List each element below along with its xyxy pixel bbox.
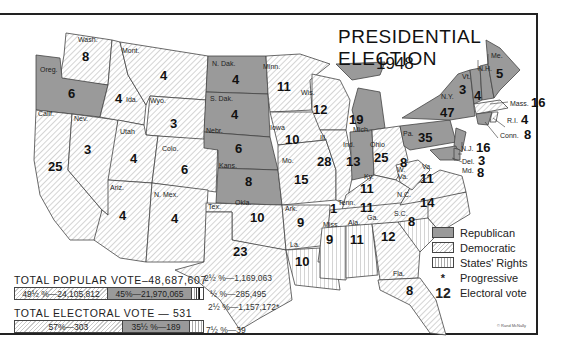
ev-tenn: 11	[360, 200, 374, 215]
legend-republican: Republican	[432, 225, 528, 240]
ev-ind: 13	[346, 154, 360, 169]
label-ida: Ida.	[126, 96, 138, 103]
ev-nebr: 6	[235, 141, 242, 156]
ev-ndak: 4	[232, 72, 240, 87]
legend-label: Republican	[460, 227, 515, 239]
ev-tex: 23	[233, 244, 247, 259]
label-colo: Colo.	[162, 145, 178, 152]
popular-vote-bar: 49½ %—24,105,812 45%—21,970,065	[14, 287, 204, 300]
ev-ariz: 4	[119, 208, 127, 223]
legend-electoral-vote: 12 Electoral vote	[432, 285, 528, 300]
states-rights-swatch	[432, 257, 454, 268]
electoral-vote-bar: 57%—303 35½ %—189	[14, 320, 204, 333]
ev-sc: 8	[408, 214, 415, 229]
ev-nh: 4	[474, 88, 482, 103]
ev-ohio: 25	[374, 150, 388, 165]
vote-totals: TOTAL POPULAR VOTE–48,687,607 49½ %—24,1…	[14, 274, 207, 333]
label-sdak: S. Dak.	[210, 95, 233, 102]
ev-nev: 3	[84, 142, 91, 157]
label-ill: Ill.	[320, 134, 327, 141]
label-md: Md.	[462, 167, 474, 174]
label-tex: Tex.	[208, 203, 221, 210]
legend: Republican Democratic States' Rights * P…	[432, 225, 528, 300]
ev-oreg: 6	[68, 86, 75, 101]
legend-label: Progressive	[460, 272, 518, 284]
ev-pa: 35	[418, 130, 432, 145]
republican-swatch	[432, 227, 454, 238]
popular-prog-note: 2½ %—1,157,172*	[208, 302, 279, 312]
label-ri: R.I.	[507, 117, 518, 124]
label-mo: Mo.	[282, 157, 294, 164]
ev-conn: 8	[524, 127, 531, 142]
label-wyo: Wyo.	[150, 97, 166, 105]
label-ny: N.Y.	[441, 93, 454, 100]
electoral-sr-segment	[190, 321, 203, 332]
ev-wyo: 3	[170, 116, 177, 131]
label-ndak: N. Dak.	[212, 60, 235, 67]
popular-dem-segment: 49½ %—24,105,812	[15, 288, 108, 299]
label-tenn: Tenn.	[338, 199, 355, 206]
ev-wva: 8	[400, 155, 407, 170]
label-fla: Fla.	[393, 270, 405, 277]
label-la: La.	[290, 241, 300, 248]
label-miss: Miss.	[323, 221, 339, 228]
label-nebr: Nebr.	[206, 127, 223, 134]
label-ark: Ark.	[285, 205, 298, 212]
ev-okla: 10	[250, 210, 264, 225]
map-year: 1948	[376, 54, 414, 74]
ev-ga: 12	[381, 229, 395, 244]
electoral-dem-segment: 57%—303	[15, 321, 123, 332]
ev-mo: 15	[294, 172, 308, 187]
asterisk-icon: *	[432, 272, 454, 284]
ev-ala: 11	[350, 232, 364, 247]
label-ind: Ind.	[343, 141, 355, 148]
ev-ark: 9	[297, 215, 304, 230]
label-wis: Wis.	[301, 89, 315, 96]
label-kans: Kans.	[219, 162, 237, 169]
label-mass: Mass.	[510, 100, 529, 107]
democratic-swatch	[432, 242, 454, 253]
popular-other-note: ½ %—285,495	[210, 289, 266, 299]
legend-progressive: * Progressive	[432, 270, 528, 285]
electoral-vote-header: TOTAL ELECTORAL VOTE — 531	[14, 307, 207, 319]
label-wash: Wash.	[78, 36, 98, 43]
ev-la: 10	[295, 254, 309, 269]
label-mont: Mont.	[122, 47, 140, 54]
label-minn: Minn.	[263, 63, 280, 70]
label-ariz: Ariz.	[110, 184, 124, 191]
label-vt: Vt.	[462, 73, 471, 80]
label-nmex: N. Mex.	[154, 191, 178, 198]
label-nj: N.J.	[461, 145, 474, 152]
ev-tenn-sr: 1	[330, 201, 337, 216]
ev-mich: 19	[349, 112, 363, 127]
label-mich: Mich.	[353, 126, 370, 133]
ev-kans: 8	[245, 174, 252, 189]
ev-wis: 12	[313, 102, 327, 117]
label-nc: N.C.	[397, 191, 411, 198]
ev-md: 8	[477, 165, 484, 180]
label-conn: Conn.	[500, 132, 519, 139]
legend-label: Democratic	[460, 242, 516, 254]
label-utah: Utah	[120, 128, 135, 135]
ev-calif: 25	[48, 159, 62, 174]
ev-nmex: 4	[171, 211, 179, 226]
label-pa: Pa.	[403, 130, 414, 137]
popular-vote-header: TOTAL POPULAR VOTE–48,687,607	[14, 274, 207, 286]
ev-fla: 8	[406, 283, 413, 298]
state-conn	[476, 112, 492, 125]
legend-label: Electoral vote	[460, 287, 527, 299]
ev-mont: 4	[160, 68, 168, 83]
ev-ill: 28	[317, 154, 331, 169]
legend-democratic: Democratic	[432, 240, 528, 255]
label-ohio: Ohio	[370, 141, 385, 148]
electoral-vote-symbol: 12	[432, 285, 454, 301]
ev-ri: 4	[521, 112, 529, 127]
ev-iowa: 10	[285, 132, 299, 147]
label-ga: Ga.	[367, 214, 378, 221]
electoral-rep-segment: 35½ %—189	[123, 321, 190, 332]
ev-colo: 6	[181, 162, 188, 177]
ev-nc: 14	[420, 195, 435, 210]
ev-ny: 47	[440, 105, 454, 120]
popular-rep-segment: 45%—21,970,065	[108, 288, 192, 299]
electoral-sr-note: 7½ %—39	[206, 325, 246, 335]
